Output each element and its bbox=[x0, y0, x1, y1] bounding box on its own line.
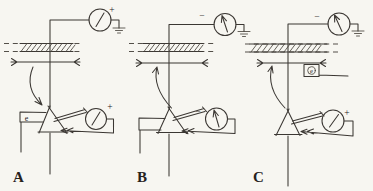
bar-hatching bbox=[144, 44, 203, 52]
suspension-thread bbox=[257, 60, 326, 67]
wire bbox=[50, 20, 89, 108]
meter-needle-icon bbox=[96, 13, 104, 27]
panel-label: A bbox=[13, 169, 24, 185]
panel-c: − e + C bbox=[245, 12, 364, 186]
bottom-voltmeter bbox=[322, 110, 344, 132]
side-box bbox=[139, 118, 165, 153]
wire bbox=[350, 24, 358, 31]
electron-label: e bbox=[25, 114, 29, 123]
panel-a: + e + A bbox=[4, 5, 125, 185]
meter-needle-icon bbox=[213, 110, 219, 127]
meter-needle-icon bbox=[221, 16, 227, 33]
top-meter-sign: − bbox=[199, 11, 204, 21]
panel-label: B bbox=[137, 169, 147, 185]
bar-hatching bbox=[251, 44, 321, 52]
bar-hatching bbox=[21, 44, 75, 52]
bottom-meter-sign: + bbox=[344, 108, 349, 118]
three-panel-circuit-diagram: + e + A − − bbox=[0, 0, 373, 191]
ground-icon bbox=[113, 28, 125, 33]
bottom-meter-sign: + bbox=[107, 102, 112, 112]
top-meter-sign: − bbox=[314, 12, 319, 22]
ground-icon bbox=[238, 32, 250, 37]
electroscope-triangle bbox=[38, 106, 68, 133]
bottom-meter-sign: − bbox=[195, 107, 200, 117]
motion-arrow-down bbox=[30, 67, 42, 105]
gold-leaf bbox=[173, 107, 207, 121]
scanned-figure: + e + A − − bbox=[0, 0, 373, 191]
gold-leaf bbox=[54, 108, 88, 122]
panel-label: C bbox=[253, 169, 264, 185]
gold-leaf bbox=[292, 112, 325, 125]
top-meter-sign: + bbox=[109, 5, 114, 15]
return-wire-arrow bbox=[301, 121, 353, 136]
wire bbox=[111, 20, 119, 28]
wire bbox=[236, 25, 244, 32]
return-wire-arrow bbox=[61, 119, 114, 133]
meter-needle-icon bbox=[335, 15, 343, 32]
suspension-thread bbox=[11, 59, 80, 66]
meter-needle-icon bbox=[92, 112, 100, 125]
electron-source-label: e bbox=[310, 67, 313, 74]
ground-icon bbox=[352, 31, 364, 36]
meter-needle-icon bbox=[330, 115, 339, 128]
panel-b: − − B bbox=[129, 11, 250, 185]
suspension-thread bbox=[136, 60, 208, 67]
wire bbox=[288, 24, 328, 111]
motion-arrow-up bbox=[268, 66, 285, 108]
